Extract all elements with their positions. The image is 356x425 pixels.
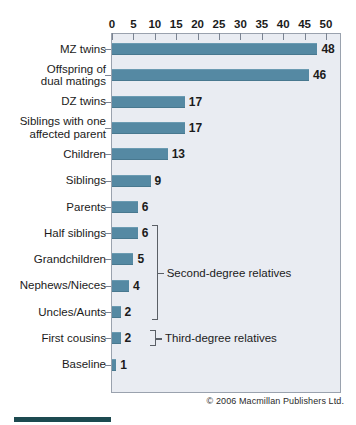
- bar-value-label: 2: [125, 306, 132, 318]
- bar: [112, 96, 185, 108]
- category-label: Siblings with one affected parent: [20, 115, 106, 140]
- category-label: First cousins: [41, 332, 106, 345]
- category-label: Grandchildren: [34, 253, 106, 266]
- bracket-stem: [158, 273, 164, 274]
- category-tick: [105, 365, 111, 366]
- accent-rule: [14, 417, 111, 422]
- bracket-label: Second-degree relatives: [167, 267, 292, 279]
- category-tick: [105, 233, 111, 234]
- bar-value-label: 6: [142, 227, 149, 239]
- category-tick: [105, 102, 111, 103]
- category-label: Siblings: [66, 174, 106, 187]
- bar: [112, 122, 185, 134]
- category-tick: [105, 154, 111, 155]
- category-label: Parents: [66, 201, 106, 214]
- bar: [112, 148, 168, 160]
- category-label: Children: [63, 148, 106, 161]
- bar: [112, 201, 138, 213]
- x-tick-label: 45: [298, 17, 311, 31]
- x-tick-label: 15: [170, 17, 183, 31]
- x-tick-label: 40: [277, 17, 290, 31]
- bar: [112, 280, 129, 292]
- category-tick: [105, 312, 111, 313]
- x-tick-label: 10: [148, 17, 161, 31]
- x-tick-label: 20: [191, 17, 204, 31]
- bar-value-label: 4: [133, 280, 140, 292]
- bar: [112, 43, 317, 55]
- bar-value-label: 2: [125, 332, 132, 344]
- category-tick: [105, 286, 111, 287]
- category-label: Offspring of dual matings: [41, 63, 106, 88]
- category-label: Uncles/Aunts: [38, 306, 106, 319]
- bar: [112, 175, 151, 187]
- category-tick: [105, 75, 111, 76]
- category-tick: [105, 207, 111, 208]
- bar-value-label: 17: [189, 122, 202, 134]
- bar-value-label: 9: [155, 175, 162, 187]
- bar-value-label: 1: [120, 359, 127, 371]
- bar-value-label: 17: [189, 96, 202, 108]
- category-tick: [105, 49, 111, 50]
- x-tick-label: 0: [109, 17, 115, 31]
- bar-value-label: 13: [172, 148, 185, 160]
- category-tick: [105, 181, 111, 182]
- x-tick-label: 50: [320, 17, 333, 31]
- category-label: Nephews/Nieces: [20, 279, 106, 292]
- bar: [112, 306, 121, 318]
- bar-value-label: 6: [142, 201, 149, 213]
- category-tick: [105, 259, 111, 260]
- bar: [112, 359, 116, 371]
- bar: [112, 227, 138, 239]
- category-tick: [105, 128, 111, 129]
- bar-value-label: 46: [313, 69, 326, 81]
- bar-value-label: 48: [321, 43, 334, 55]
- x-tick-label: 25: [213, 17, 226, 31]
- x-axis-tick-labels: 05101520253035404550: [111, 17, 341, 31]
- bar-value-label: 5: [137, 253, 144, 265]
- category-label: Half siblings: [44, 227, 106, 240]
- x-tick-label: 35: [255, 17, 268, 31]
- bar: [112, 332, 121, 344]
- x-tick-label: 5: [130, 17, 136, 31]
- x-tick-label: 30: [234, 17, 247, 31]
- bar: [112, 69, 309, 81]
- category-label: Baseline: [62, 358, 106, 371]
- category-label: MZ twins: [60, 43, 106, 56]
- chart-figure: 05101520253035404550 MZ twins48Offspring…: [0, 0, 356, 425]
- bracket-label: Third-degree relatives: [165, 332, 277, 344]
- copyright-credit: © 2006 Macmillan Publishers Ltd.: [207, 396, 344, 406]
- bar: [112, 253, 133, 265]
- bracket-stem: [156, 338, 162, 339]
- category-tick: [105, 338, 111, 339]
- category-label: DZ twins: [61, 95, 106, 108]
